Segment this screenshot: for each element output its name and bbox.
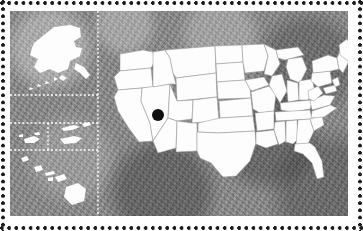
territory-island-west-b bbox=[34, 132, 40, 135]
state-texas bbox=[197, 131, 256, 177]
hawaii-island-maui bbox=[55, 174, 67, 182]
hawaii-island-lanai bbox=[48, 177, 53, 181]
panel-pacific-territories-inset-west bbox=[19, 132, 40, 143]
map-geometry-layer bbox=[10, 11, 348, 216]
territory-island-east-c bbox=[60, 136, 82, 144]
panel-pacific-territories-inset-east bbox=[60, 122, 91, 144]
state-wyoming bbox=[176, 73, 217, 101]
stamp-map-figure bbox=[0, 0, 363, 231]
state-nebraska bbox=[217, 80, 251, 99]
state-florida bbox=[294, 143, 324, 179]
perforation-edge-right bbox=[358, 0, 362, 231]
hawaii-island-oahu bbox=[34, 165, 43, 172]
state-south-dakota bbox=[216, 62, 245, 82]
state-arkansas bbox=[255, 111, 274, 131]
territory-island-west-c bbox=[19, 134, 23, 137]
hawaii-island-molokai bbox=[45, 171, 55, 176]
state-oregon bbox=[114, 68, 153, 90]
alaska-mainland bbox=[30, 25, 82, 73]
perforation-edge-left bbox=[1, 0, 5, 231]
state-indiana bbox=[287, 80, 299, 102]
state-new-mexico bbox=[176, 121, 197, 152]
state-minnesota bbox=[242, 44, 268, 73]
panel-alaska-inset bbox=[29, 25, 90, 90]
state-kansas bbox=[219, 98, 253, 118]
alaska-kodiak-island bbox=[59, 75, 67, 81]
territory-island-east-a bbox=[62, 125, 80, 131]
state-pennsylvania bbox=[311, 71, 332, 87]
territory-island-west-a bbox=[24, 136, 40, 143]
panel-hawaii-inset bbox=[21, 156, 86, 205]
hawaii-island-kauai bbox=[21, 156, 29, 162]
state-michigan-lower bbox=[286, 57, 307, 83]
alaska-southeast-panhandle bbox=[74, 63, 90, 79]
location-marker[interactable] bbox=[152, 109, 164, 121]
map-canvas bbox=[10, 11, 348, 216]
hawaii-island-hawaii bbox=[64, 183, 86, 205]
perforation-edge-top bbox=[0, 1, 363, 5]
alaska-aleutian-islands bbox=[29, 77, 58, 90]
state-north-dakota bbox=[215, 45, 243, 64]
panel-contiguous-united-states bbox=[114, 39, 348, 179]
perforation-edge-bottom bbox=[0, 226, 363, 230]
state-new-york bbox=[312, 55, 339, 73]
